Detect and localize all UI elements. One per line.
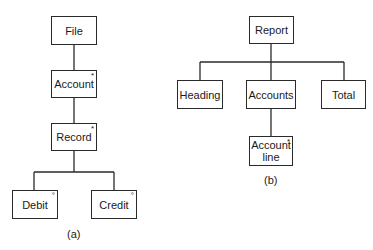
iteration-marker: * [287,138,290,146]
node-file: File [51,16,97,45]
caption-b: (b) [264,174,277,186]
caption-a: (a) [67,228,80,240]
node-label: Accounts [248,89,293,101]
selection-marker: ° [131,192,134,200]
node-total: Total [321,80,366,109]
node-label: Report [255,24,288,36]
node-label: Account [54,78,94,90]
iteration-marker: * [91,125,94,133]
iteration-marker: * [91,72,94,80]
node-label-line1: Account [251,139,291,151]
selection-marker: ° [52,192,55,200]
node-accounts: Accounts [246,80,296,109]
node-label-line2: line [262,151,279,163]
node-credit: Credit ° [91,190,137,219]
node-account: Account * [51,70,97,98]
node-label: Total [332,89,355,101]
node-label: Record [56,131,91,143]
node-record: Record * [51,123,97,151]
node-debit: Debit ° [12,190,58,219]
node-label: Debit [22,199,48,211]
node-report: Report [249,16,294,44]
node-label: Heading [180,89,221,101]
node-heading: Heading [177,80,223,109]
node-account-line: Account line * [249,136,293,166]
node-label: File [65,25,83,37]
node-label: Credit [99,199,128,211]
